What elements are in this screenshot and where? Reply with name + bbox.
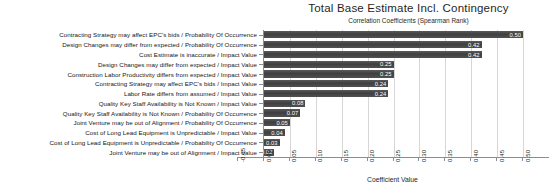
- x-axis-tick-label: 0.20: [369, 150, 375, 162]
- chart-title: Total Base Estimate Incl. Contingency: [266, 2, 551, 15]
- x-axis-tick-label: 0.15: [343, 150, 349, 162]
- x-axis-tick: [418, 157, 419, 161]
- bar-value-label: 0.42: [463, 42, 480, 48]
- gridline: [419, 30, 420, 157]
- category-tick: [259, 45, 263, 46]
- x-axis-tick: [522, 157, 523, 161]
- category-tick: [259, 142, 263, 143]
- category-label: Cost of Long Lead Equipment is Unpredict…: [2, 129, 257, 136]
- bar-value-label: 0.42: [463, 52, 480, 58]
- x-axis-tick: [289, 157, 290, 161]
- x-axis-tick: [496, 157, 497, 161]
- correlation-tornado-chart: Total Base Estimate Incl. Contingency Co…: [0, 0, 551, 192]
- chart-title-block: Total Base Estimate Incl. Contingency Co…: [266, 2, 551, 25]
- bar[interactable]: [264, 31, 523, 38]
- bar[interactable]: [264, 41, 482, 48]
- x-axis-tick-label: 0.10: [317, 150, 323, 162]
- x-axis-tick-label: 0.25: [395, 150, 401, 162]
- category-label: Construction Labor Productivity differs …: [2, 71, 257, 78]
- x-axis-tick: [470, 157, 471, 161]
- gridline: [394, 30, 395, 157]
- x-axis-tick: [237, 157, 238, 161]
- category-tick: [259, 54, 263, 55]
- x-axis-tick-label: 0.45: [499, 150, 505, 162]
- category-tick: [259, 35, 263, 36]
- x-axis-tick-label: 0.00: [266, 150, 272, 162]
- chart-subtitle: Correlation Coefficients (Spearman Rank): [266, 16, 551, 25]
- bar-value-label: 0.25: [375, 61, 392, 67]
- category-tick: [259, 123, 263, 124]
- bar-value-label: 0.05: [271, 120, 288, 126]
- x-axis-tick-label: 0.35: [447, 150, 453, 162]
- x-axis-tick-label: 0.30: [421, 150, 427, 162]
- category-label: Joint Venture may be out of Alignment / …: [2, 149, 257, 156]
- bar-value-label: 0.07: [281, 110, 298, 116]
- x-axis-tick: [263, 157, 264, 161]
- x-axis-tick-label: 0.40: [473, 150, 479, 162]
- gridline: [445, 30, 446, 157]
- gridline: [523, 30, 524, 157]
- x-axis-tick: [341, 157, 342, 161]
- bar-value-label: 0.08: [286, 100, 303, 106]
- category-label: Contracting Strategy may affect EPC's bi…: [2, 31, 257, 38]
- category-label: Contracting Strategy may affect EPC's bi…: [2, 80, 257, 87]
- category-label: Design Changes may differ from expected …: [2, 41, 257, 48]
- category-label: Labor Rate differs from assumed / Impact…: [2, 90, 257, 97]
- category-tick: [259, 152, 263, 153]
- bar-value-label: 0.25: [375, 71, 392, 77]
- x-axis-title: Coefficient Value: [263, 176, 522, 183]
- category-tick: [259, 94, 263, 95]
- category-tick: [259, 74, 263, 75]
- x-axis-tick-label: 0.05: [291, 150, 297, 162]
- gridline: [471, 30, 472, 157]
- x-axis-tick: [367, 157, 368, 161]
- x-axis-tick: [444, 157, 445, 161]
- bar-value-label: 0.04: [266, 130, 283, 136]
- category-label: Quality Key Staff Availability is Not Kn…: [2, 110, 257, 117]
- bar-value-label: 0.24: [369, 91, 386, 97]
- plot-area: 0.500.420.420.250.250.240.240.080.070.05…: [263, 30, 523, 157]
- x-axis-tick: [315, 157, 316, 161]
- bar[interactable]: [264, 51, 482, 58]
- category-label: Cost of Long Lead Equipment is Unpredict…: [2, 139, 257, 146]
- category-label: Joint Venture may be out of Alignment / …: [2, 119, 257, 126]
- category-tick: [259, 133, 263, 134]
- x-axis-tick-label: 0.50: [525, 150, 531, 162]
- bar-value-label: 0.50: [504, 32, 521, 38]
- category-label: Design Changes may differ from expected …: [2, 61, 257, 68]
- category-tick: [259, 103, 263, 104]
- category-tick: [259, 84, 263, 85]
- category-tick: [259, 64, 263, 65]
- bar-value-label: 0.03: [261, 140, 278, 146]
- x-axis-tick: [393, 157, 394, 161]
- category-label: Quality Key Staff Availability is Not Kn…: [2, 100, 257, 107]
- bar-value-label: 0.24: [369, 81, 386, 87]
- category-tick: [259, 113, 263, 114]
- gridline: [497, 30, 498, 157]
- category-label: Cost Estimate is inaccurate / Impact Val…: [2, 51, 257, 58]
